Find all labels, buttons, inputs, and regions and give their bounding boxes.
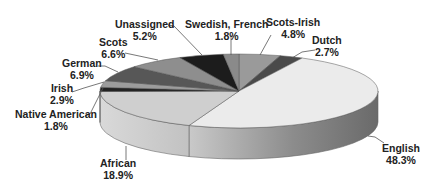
label-swedish-french: Swedish, French 1.8%: [185, 18, 268, 42]
leader-scots: [125, 53, 158, 60]
label-native-american: Native American 1.8%: [15, 108, 97, 132]
leader-irish: [72, 82, 104, 92]
label-english: English 48.3%: [382, 142, 420, 166]
label-dutch: Dutch 2.7%: [312, 34, 342, 58]
label-scots: Scots 6.6%: [99, 36, 128, 60]
label-african: African 18.9%: [100, 157, 136, 181]
label-german: German 6.9%: [62, 57, 102, 81]
label-irish: Irish 2.9%: [50, 82, 74, 106]
pie-top: [100, 54, 378, 128]
